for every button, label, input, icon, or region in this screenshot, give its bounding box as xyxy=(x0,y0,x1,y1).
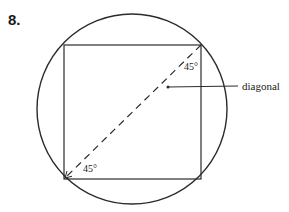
diagonal-line xyxy=(65,45,201,178)
angle-label-bottom-left: 45° xyxy=(83,163,97,174)
angle-label-top-right: 45° xyxy=(184,61,198,72)
geometry-figure: 8. diagonal 45° 45° xyxy=(0,0,289,212)
circle xyxy=(37,14,227,204)
leader-line xyxy=(168,86,238,87)
diagonal-label: diagonal xyxy=(242,80,280,92)
circle-inscribed-square-diagram: diagonal 45° 45° xyxy=(0,0,289,212)
